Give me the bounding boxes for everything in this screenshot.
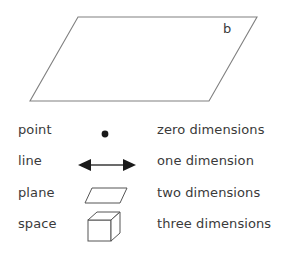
table-row: line one dimension <box>0 149 283 180</box>
table-row: plane two dimensions <box>0 181 283 212</box>
large-plane-parallelogram-svg <box>0 0 283 112</box>
table-row: space three dimensions <box>0 212 283 243</box>
dimension-term: point <box>18 121 80 138</box>
dimension-description: three dimensions <box>157 215 283 232</box>
parallelogram-icon-svg <box>76 179 138 209</box>
small-parallelogram-shape <box>85 188 127 203</box>
dimension-term: plane <box>18 184 80 201</box>
arrow-head-left <box>78 159 91 171</box>
dimension-term: space <box>18 215 80 232</box>
cube-front-face <box>88 220 111 241</box>
large-plane-parallelogram: b <box>0 0 283 112</box>
cube-icon <box>76 208 138 239</box>
dot-shape <box>102 131 109 138</box>
cube-icon-svg <box>76 208 138 244</box>
parallelogram-icon <box>76 179 138 210</box>
arrow-head-right <box>123 159 136 171</box>
geometry-dimensions-figure: b point zero dimensions line on <box>0 0 283 258</box>
dimension-description: one dimension <box>157 152 283 169</box>
dimension-table: point zero dimensions line one dimension <box>0 112 283 258</box>
plane-label-b: b <box>223 22 231 36</box>
dimension-term: line <box>18 152 80 169</box>
double-headed-arrow-icon-svg <box>76 153 138 177</box>
point-dot-icon-svg <box>76 122 138 146</box>
dimension-description: zero dimensions <box>157 121 283 138</box>
dimension-description: two dimensions <box>157 184 283 201</box>
table-row: point zero dimensions <box>0 118 283 149</box>
